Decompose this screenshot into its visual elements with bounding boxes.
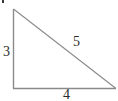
hypotenuse-label: 5 [73,35,80,49]
vertical-leg-label: 3 [3,45,10,59]
base-leg-label: 4 [63,88,70,101]
triangle-figure: 3 5 4 [0,0,118,101]
hypotenuse-line [14,9,117,89]
triangle-shape [0,0,118,101]
